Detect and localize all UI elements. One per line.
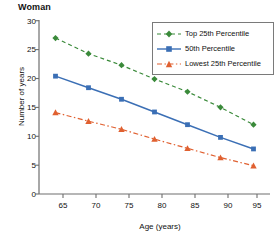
legend-item-top-25th: Top 25th Percentile [156,26,270,41]
data-point-marker [85,51,91,57]
data-point-marker [119,97,124,102]
legend-label: 50th Percentile [185,44,235,53]
data-point-marker [217,104,223,110]
data-point-marker [118,62,124,68]
data-point-marker [53,74,58,79]
data-point-marker [185,122,190,127]
legend-label: Top 25th Percentile [185,29,249,38]
chart-container: Woman Number of years Age (years) 30 25 … [0,0,279,240]
data-point-marker [250,122,256,128]
data-point-marker [86,85,91,90]
legend-item-lowest-25th: Lowest 25th Percentile [156,56,270,71]
data-point-marker [250,162,256,168]
data-point-marker [52,35,58,41]
legend-label: Lowest 25th Percentile [185,59,261,68]
legend-sample-50th [156,43,182,55]
legend-item-50th: 50th Percentile [156,41,270,56]
data-point-marker [152,110,157,115]
data-point-marker [52,109,58,115]
data-point-marker [218,135,223,140]
legend-sample-lowest-25th [156,58,182,70]
legend-sample-top-25th [156,28,182,40]
data-point-marker [251,147,256,152]
data-point-marker [151,76,157,82]
data-point-marker [184,89,190,95]
chart-legend: Top 25th Percentile 50th Percentile Lowe… [152,22,274,75]
x-axis-ticks [63,194,257,198]
